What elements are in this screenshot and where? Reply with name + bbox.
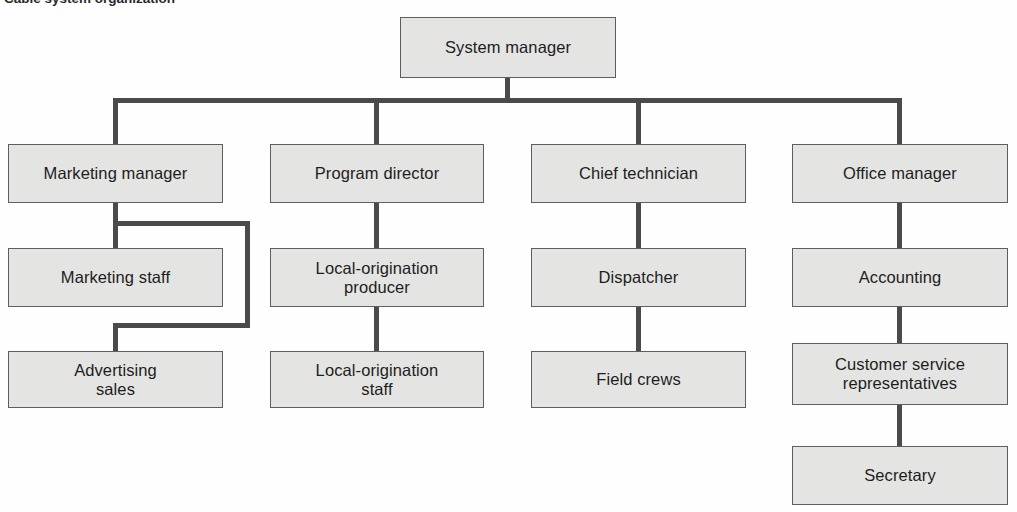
node-label: Advertising sales — [68, 361, 163, 399]
node-label: Customer service representatives — [829, 355, 971, 393]
node-label-line-2: staff — [361, 380, 392, 398]
node-label-line-2: producer — [344, 278, 410, 296]
connector-bus-to-program-director — [374, 98, 379, 145]
node-label: Marketing manager — [38, 164, 194, 183]
node-office-manager[interactable]: Office manager — [792, 144, 1008, 203]
connector-bus-to-chief-technician — [636, 98, 641, 145]
connector-bus-to-office-manager — [897, 98, 902, 145]
node-label-line-1: Local-origination — [316, 361, 439, 379]
node-marketing-manager[interactable]: Marketing manager — [8, 144, 223, 203]
connector-accounting-to-customer-service — [897, 306, 902, 344]
connector-customer-service-to-secretary — [897, 404, 902, 446]
connector-office-manager-to-accounting — [897, 202, 902, 249]
node-advertising-sales[interactable]: Advertising sales — [8, 351, 223, 408]
node-label-line-2: representatives — [843, 374, 957, 392]
connector-dispatcher-to-field-crews — [636, 306, 641, 352]
node-customer-service-representatives[interactable]: Customer service representatives — [792, 343, 1008, 405]
node-chief-technician[interactable]: Chief technician — [531, 144, 746, 203]
node-label: System manager — [439, 38, 577, 57]
connector-horizontal-bus — [113, 98, 902, 103]
node-label: Secretary — [858, 466, 942, 485]
node-local-origination-staff[interactable]: Local-origination staff — [270, 351, 484, 408]
node-label: Local-origination producer — [310, 259, 445, 297]
node-label: Dispatcher — [593, 268, 685, 287]
node-system-manager[interactable]: System manager — [400, 17, 616, 78]
connector-marketing-bracket-bottom — [113, 323, 250, 328]
node-label: Office manager — [837, 164, 963, 183]
node-label: Field crews — [590, 370, 687, 389]
node-label: Local-origination staff — [310, 361, 445, 399]
connector-bracket-to-advertising-sales — [113, 323, 118, 352]
node-label-line-2: sales — [96, 380, 135, 398]
connector-marketing-bracket-right — [245, 221, 250, 328]
connector-lo-producer-to-lo-staff — [374, 306, 379, 352]
node-label: Marketing staff — [55, 268, 176, 287]
node-program-director[interactable]: Program director — [270, 144, 484, 203]
node-local-origination-producer[interactable]: Local-origination producer — [270, 248, 484, 307]
node-field-crews[interactable]: Field crews — [531, 351, 746, 408]
node-label: Program director — [309, 164, 445, 183]
figure-caption-text: Cable system organization — [4, 0, 175, 7]
node-label: Accounting — [853, 268, 948, 287]
connector-chief-technician-to-dispatcher — [636, 202, 641, 249]
node-label: Chief technician — [573, 164, 704, 183]
node-dispatcher[interactable]: Dispatcher — [531, 248, 746, 307]
org-chart-figure: Cable system organization System manager… — [0, 0, 1017, 512]
connector-bus-to-marketing-manager — [113, 98, 118, 145]
node-accounting[interactable]: Accounting — [792, 248, 1008, 307]
node-marketing-staff[interactable]: Marketing staff — [8, 248, 223, 307]
node-label-line-1: Local-origination — [316, 259, 439, 277]
connector-program-director-to-lo-producer — [374, 202, 379, 249]
node-label-line-1: Customer service — [835, 355, 965, 373]
figure-caption: Cable system organization — [4, 0, 175, 7]
node-label-line-1: Advertising — [74, 361, 157, 379]
node-secretary[interactable]: Secretary — [792, 446, 1008, 505]
connector-marketing-bracket-top — [113, 221, 250, 226]
